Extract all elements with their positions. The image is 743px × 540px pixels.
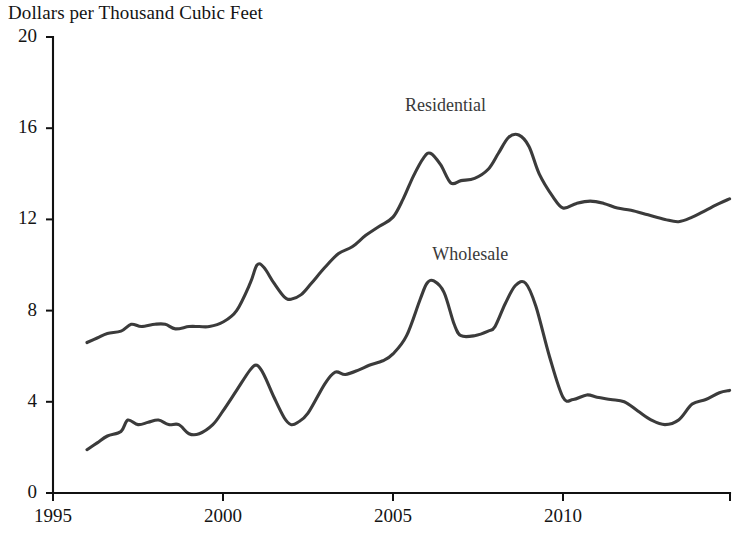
axes: [46, 37, 730, 501]
data-series-group: [87, 134, 730, 449]
y-tick-label: 12: [0, 208, 37, 228]
x-tick-label: 2005: [358, 506, 428, 526]
series-line-residential: [87, 134, 730, 342]
y-tick-label: 0: [0, 482, 37, 502]
x-tick-label: 2010: [528, 506, 598, 526]
series-annotation-wholesale: Wholesale: [432, 244, 508, 264]
x-tick-label: 1995: [18, 506, 88, 526]
series-annotation-residential: Residential: [405, 95, 486, 115]
y-tick-label: 8: [0, 300, 37, 320]
y-tick-label: 20: [0, 26, 37, 46]
x-axis-ticks: [53, 493, 730, 501]
gas-price-chart: Dollars per Thousand Cubic Feet 04812162…: [0, 0, 743, 540]
series-line-wholesale: [87, 280, 730, 450]
x-tick-label: 2000: [188, 506, 258, 526]
y-tick-label: 16: [0, 117, 37, 137]
plot-area: [0, 0, 743, 540]
y-tick-label: 4: [0, 391, 37, 411]
